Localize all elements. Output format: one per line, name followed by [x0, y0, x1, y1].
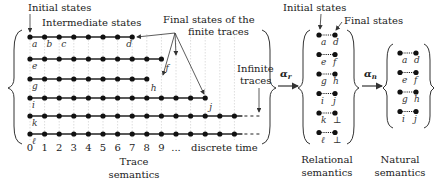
state-dot	[71, 56, 76, 61]
trace-row: k	[27, 113, 260, 128]
state-dot	[100, 34, 105, 39]
state-dot	[100, 56, 105, 61]
relational-initial-arrow	[320, 14, 321, 29]
intermediate-state-label: b	[47, 39, 53, 49]
state-dot	[100, 76, 105, 81]
state-pair: ij	[316, 91, 337, 106]
time-tick: 5	[100, 142, 106, 153]
state-dot	[130, 131, 135, 136]
time-tick: 1	[41, 142, 47, 153]
state-pair: ef	[316, 52, 338, 67]
time-gridlines	[30, 34, 234, 140]
pair-to-label: h	[333, 76, 339, 86]
pair-from-label: g	[402, 94, 408, 104]
relational-left-brace	[298, 30, 310, 144]
state-dot	[71, 34, 76, 39]
state-dot	[144, 131, 149, 136]
state-dot	[86, 131, 91, 136]
state-dot	[71, 95, 76, 100]
state-pair: gh	[397, 89, 419, 104]
state-dot	[71, 76, 76, 81]
trace-start-label: i	[32, 100, 35, 110]
state-dot	[57, 113, 62, 118]
state-pair: ij	[397, 109, 418, 124]
trace-semantics-caption-line1: Trace	[120, 156, 149, 167]
state-dot	[42, 56, 47, 61]
state-dot	[188, 95, 193, 100]
state-dot	[173, 131, 178, 136]
final-states-label-line2: finite traces	[188, 26, 249, 37]
time-tick: 8	[144, 142, 150, 153]
relational-initial-states-label: Initial states	[283, 2, 346, 13]
discrete-time-label: discrete time	[191, 142, 258, 153]
trace-start-label: k	[32, 118, 37, 128]
state-dot	[159, 113, 164, 118]
state-dot	[115, 113, 120, 118]
time-tick: 9	[158, 142, 164, 153]
final-states-label-line1: Final states of the	[163, 14, 255, 25]
infinite-traces-label-line1: Infinite	[237, 63, 274, 74]
state-dot	[144, 76, 149, 81]
state-pair: ef	[397, 70, 419, 85]
state-dot	[86, 76, 91, 81]
state-dot	[130, 56, 135, 61]
state-dot	[42, 113, 47, 118]
state-dot	[100, 95, 105, 100]
trace-rows: abcdefghijkℓ	[27, 34, 260, 146]
state-dot	[115, 34, 120, 39]
relational-caption-line1: Relational	[301, 154, 352, 165]
state-dot	[115, 95, 120, 100]
state-dot	[188, 131, 193, 136]
pair-from-label: i	[321, 96, 324, 106]
state-dot	[144, 56, 149, 61]
state-dot	[57, 76, 62, 81]
state-dot	[115, 131, 120, 136]
pair-from-label: a	[321, 37, 326, 47]
state-dot	[144, 95, 149, 100]
trace-start-label: g	[32, 81, 38, 91]
state-dot	[203, 95, 208, 100]
state-dot	[115, 76, 120, 81]
trace-start-label: a	[32, 39, 37, 49]
state-dot	[173, 95, 178, 100]
pair-to-label: j	[331, 96, 336, 106]
time-tick: 2	[56, 142, 62, 153]
relational-caption-line2: semantics	[302, 167, 353, 178]
pair-to-label: d	[333, 37, 339, 47]
trace-end-label: d	[126, 39, 132, 49]
trace-set-left-brace	[8, 30, 22, 144]
trace-end-label: h	[151, 83, 157, 93]
final-arrow-h	[163, 33, 175, 75]
intermediate-states-label: Intermediate states	[42, 17, 141, 28]
pair-from-label: e	[402, 75, 407, 85]
state-dot	[232, 131, 237, 136]
state-dot	[159, 56, 164, 61]
state-pair: k⊥	[316, 110, 341, 125]
state-dot	[57, 56, 62, 61]
state-dot	[86, 34, 91, 39]
state-dot	[232, 113, 237, 118]
final-arrow-d	[137, 33, 175, 37]
state-dot	[42, 95, 47, 100]
state-dot	[71, 113, 76, 118]
state-dot	[86, 56, 91, 61]
state-pair: gh	[316, 71, 338, 86]
trace-set-right-brace	[262, 30, 276, 144]
pair-to-label: j	[412, 114, 417, 124]
pair-to-label: f	[413, 75, 419, 85]
state-dot	[130, 113, 135, 118]
pair-from-label: g	[321, 76, 327, 86]
time-tick: ...	[171, 142, 181, 153]
relational-right-brace	[347, 30, 359, 144]
time-tick: 4	[85, 142, 91, 153]
pair-to-label: h	[414, 94, 420, 104]
state-dot	[57, 95, 62, 100]
state-dot	[71, 131, 76, 136]
pair-from-label: a	[402, 55, 407, 65]
state-dot	[188, 113, 193, 118]
natural-left-brace	[383, 44, 393, 128]
final-arrow-f	[175, 33, 176, 55]
trace-row: abcd	[27, 34, 134, 49]
relational-pairs: adefghijk⊥ℓ⊥	[316, 32, 341, 144]
initial-states-label: Initial states	[28, 2, 91, 13]
